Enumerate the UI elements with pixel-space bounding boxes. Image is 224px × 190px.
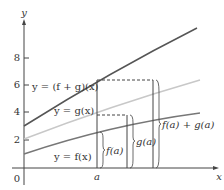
y-tick-label-2: 2 bbox=[14, 134, 20, 145]
x-tick-label-a: a bbox=[94, 171, 100, 182]
label-curve-g: y = g(x) bbox=[53, 105, 94, 116]
x-axis-label: x bbox=[216, 171, 222, 182]
label-f-a: f(a) bbox=[105, 145, 124, 156]
label-curve-f-plus-g: y = (f + g)(x) bbox=[31, 81, 99, 92]
brace-g bbox=[130, 115, 135, 168]
curve-f-plus-g bbox=[24, 28, 197, 126]
y-axis-arrow-icon bbox=[22, 19, 26, 25]
y-tick-label-8: 8 bbox=[14, 52, 20, 63]
origin-label: 0 bbox=[14, 173, 20, 184]
label-g-a: g(a) bbox=[136, 136, 156, 147]
y-tick-label-4: 4 bbox=[14, 106, 20, 117]
y-tick-label-6: 6 bbox=[14, 79, 20, 90]
x-axis-arrow-icon bbox=[213, 166, 219, 170]
label-curve-f: y = f(x) bbox=[53, 151, 92, 162]
brace-f bbox=[100, 132, 105, 168]
label-sum-a: f(a) + g(a) bbox=[161, 119, 214, 130]
sum-of-functions-diagram: 8 6 4 2 0 y x a f(a) g(a) f(a) + g(a) y … bbox=[0, 0, 224, 190]
y-axis-label: y bbox=[20, 7, 27, 18]
